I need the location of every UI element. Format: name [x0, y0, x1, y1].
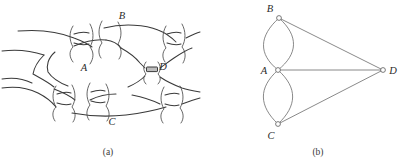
caption-b: (b) [312, 147, 323, 158]
bridge-1-deck-top [74, 32, 89, 34]
graph-node-a[interactable] [276, 68, 281, 73]
graph-edge-ab-left [263, 18, 279, 70]
graph-edge-ab-right [278, 18, 294, 70]
figure-container: A B C D B A C D [0, 0, 402, 167]
shoreline-south-right [182, 98, 200, 104]
bridge-6-rail-left [87, 83, 90, 120]
map-label-c: C [108, 116, 116, 127]
shoreline-south-left [2, 87, 56, 107]
bridge-4-rail-left [144, 62, 146, 84]
bridge-7-rail-right [180, 86, 183, 123]
panel-b-graph: B A C D [260, 3, 397, 141]
shoreline-west-lower [2, 78, 32, 83]
graph-edge-cd [278, 70, 383, 124]
bridge-7-rail-left [161, 87, 164, 123]
shoreline-a-right-upper [121, 48, 145, 68]
map-label-d: D [158, 61, 167, 72]
bridge-5-rail-right [72, 85, 75, 122]
bridge-2-rail-right [118, 22, 121, 59]
bridge-1-rail-left [70, 26, 73, 62]
graph-node-c[interactable] [276, 122, 281, 127]
map-label-a: A [80, 62, 88, 73]
bridge-3-rail-left [163, 26, 166, 62]
bridge-7-deck-top [165, 93, 179, 95]
graph-edge-bd [279, 18, 383, 70]
bridge-1-rail-right [90, 24, 93, 64]
graph-label-c: C [267, 130, 275, 141]
bridge-7-deck-bottom [165, 104, 179, 106]
shoreline-a-left [47, 52, 68, 86]
shoreline-c-upper-mid [90, 94, 116, 100]
panel-a-map: A B C D [2, 10, 200, 127]
caption-a: (a) [103, 147, 114, 158]
graph-node-b[interactable] [277, 16, 282, 21]
map-label-b: B [119, 10, 126, 21]
graph-node-d[interactable] [381, 68, 386, 73]
shoreline-west-upper [2, 50, 44, 55]
shoreline-west-wedge [33, 55, 54, 87]
shoreline-a-top-right [106, 40, 121, 48]
graph-edge-ac-left [263, 70, 278, 124]
shoreline-c-upper-right [132, 95, 160, 104]
graph-label-a: A [260, 65, 268, 76]
shoreline-b-lower-right [186, 32, 200, 38]
graph-edge-ac-right [278, 70, 293, 124]
bridge-6-deck-bottom [91, 101, 105, 103]
graph-label-b: B [267, 3, 274, 14]
graph-label-d: D [388, 65, 397, 76]
bridge-4-deck [147, 67, 158, 72]
bridge-6-deck-top [91, 90, 105, 92]
konigsberg-figure-svg: A B C D B A C D [0, 0, 402, 167]
bridge-5-deck-bottom [57, 103, 71, 105]
bridge-3-deck-bottom [167, 43, 181, 45]
shoreline-south-mid [72, 107, 166, 116]
shoreline-a-right-lower [128, 76, 145, 87]
bridge-3-rail-right [182, 24, 185, 63]
bridge-3-deck-top [167, 32, 181, 34]
shoreline-d-lower [160, 77, 200, 92]
